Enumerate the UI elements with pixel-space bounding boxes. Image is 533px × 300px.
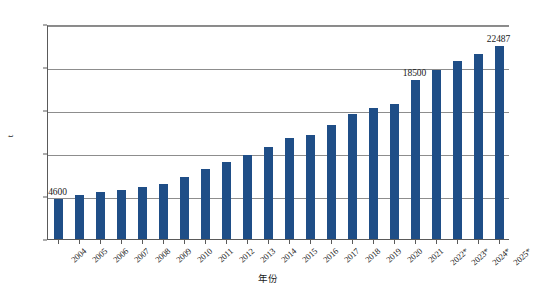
x-axis-tick-label: 2020	[405, 246, 424, 264]
x-axis-tick-label: 2006	[111, 246, 130, 264]
x-axis-tick-label: 2012	[237, 246, 256, 264]
bar[interactable]	[474, 54, 483, 239]
x-axis-tick-mark	[310, 240, 311, 244]
y-axis-title: t	[5, 135, 15, 138]
x-axis-tick-mark	[457, 240, 458, 244]
x-axis-tick-mark	[205, 240, 206, 244]
bar[interactable]	[306, 135, 315, 239]
bar[interactable]	[369, 108, 378, 239]
x-axis-tick-label: 2011	[216, 246, 235, 264]
bar-value-label: 4600	[48, 187, 67, 197]
bar[interactable]	[180, 177, 189, 239]
x-axis-tick-label: 2019	[384, 246, 403, 264]
bar[interactable]	[432, 70, 441, 239]
bar-slot	[279, 26, 300, 239]
x-axis-tick-mark	[79, 240, 80, 244]
x-axis-tick-label: 2025*	[511, 246, 533, 267]
bar[interactable]	[201, 169, 210, 239]
x-axis-tick-label: 2021	[426, 246, 445, 264]
y-axis-tick-mark	[43, 68, 47, 69]
bar-slot	[426, 26, 447, 239]
bar-slot	[321, 26, 342, 239]
bar[interactable]	[495, 46, 504, 239]
x-axis-tick-label: 2016	[321, 246, 340, 264]
bar-slot	[111, 26, 132, 239]
x-axis-tick-mark	[226, 240, 227, 244]
x-axis-tick-mark	[142, 240, 143, 244]
x-axis-tick-label: 2014	[279, 246, 298, 264]
y-axis-tick-mark	[43, 197, 47, 198]
x-axis-tick-label: 2024*	[490, 246, 512, 267]
bar[interactable]	[411, 80, 420, 239]
x-axis-tick-mark	[268, 240, 269, 244]
x-axis-tick-mark	[163, 240, 164, 244]
bar[interactable]	[75, 195, 84, 239]
x-axis-tick-mark	[394, 240, 395, 244]
x-axis-tick-mark	[331, 240, 332, 244]
x-axis-tick-label: 2018	[363, 246, 382, 264]
x-axis-tick-label: 2010	[195, 246, 214, 264]
bar-slot	[153, 26, 174, 239]
x-axis-tick-mark	[436, 240, 437, 244]
x-axis-tick-mark	[58, 240, 59, 244]
bar[interactable]	[159, 184, 168, 239]
x-axis-tick-label: 2017	[342, 246, 361, 264]
x-axis-tick-mark	[499, 240, 500, 244]
x-axis-title: 年份	[258, 271, 278, 285]
x-axis-tick-label: 2015	[300, 246, 319, 264]
bar[interactable]	[348, 114, 357, 239]
y-axis-tick-mark	[43, 25, 47, 26]
bar-slot	[195, 26, 216, 239]
bar[interactable]	[222, 162, 231, 239]
bar-slot	[447, 26, 468, 239]
bar-slot	[300, 26, 321, 239]
bar[interactable]	[138, 187, 147, 239]
bar[interactable]	[264, 147, 273, 239]
bar-value-label: 22487	[487, 34, 510, 44]
x-axis-tick-mark	[415, 240, 416, 244]
x-axis-tick-label: 2023*	[469, 246, 491, 267]
x-axis-tick-label: 2007	[132, 246, 151, 264]
plot-area	[47, 25, 509, 240]
bar-slot	[363, 26, 384, 239]
bar-slot	[48, 26, 69, 239]
bar[interactable]	[453, 61, 462, 239]
x-axis-tick-mark	[478, 240, 479, 244]
bar-slot	[258, 26, 279, 239]
bar-slot	[468, 26, 489, 239]
x-axis-tick-mark	[247, 240, 248, 244]
bar[interactable]	[54, 199, 63, 239]
x-axis-tick-label: 2005	[90, 246, 109, 264]
bar-slot	[342, 26, 363, 239]
bar-slot	[69, 26, 90, 239]
bar-slot	[174, 26, 195, 239]
bar-slot	[132, 26, 153, 239]
bar-slot	[489, 26, 510, 239]
y-axis-tick-mark	[43, 240, 47, 241]
bar-slot	[216, 26, 237, 239]
bar[interactable]	[117, 190, 126, 239]
bar[interactable]	[96, 192, 105, 239]
bar-series	[48, 26, 509, 239]
bar[interactable]	[390, 104, 399, 239]
x-axis-tick-mark	[100, 240, 101, 244]
x-axis-tick-mark	[121, 240, 122, 244]
x-axis-tick-mark	[373, 240, 374, 244]
x-axis-tick-label: 2004	[69, 246, 88, 264]
y-axis-tick-mark	[43, 111, 47, 112]
x-axis-tick-mark	[289, 240, 290, 244]
x-axis-tick-label: 2013	[258, 246, 277, 264]
bar[interactable]	[243, 155, 252, 239]
y-axis-tick-mark	[43, 154, 47, 155]
x-axis-tick-mark	[352, 240, 353, 244]
x-axis-tick-mark	[184, 240, 185, 244]
bar[interactable]	[327, 125, 336, 239]
bar-value-label: 18500	[403, 68, 426, 78]
x-axis-tick-label: 2009	[174, 246, 193, 264]
x-axis-tick-label: 2022*	[448, 246, 470, 267]
bar-slot	[237, 26, 258, 239]
bar[interactable]	[285, 138, 294, 239]
bar-slot	[90, 26, 111, 239]
bar-slot	[384, 26, 405, 239]
